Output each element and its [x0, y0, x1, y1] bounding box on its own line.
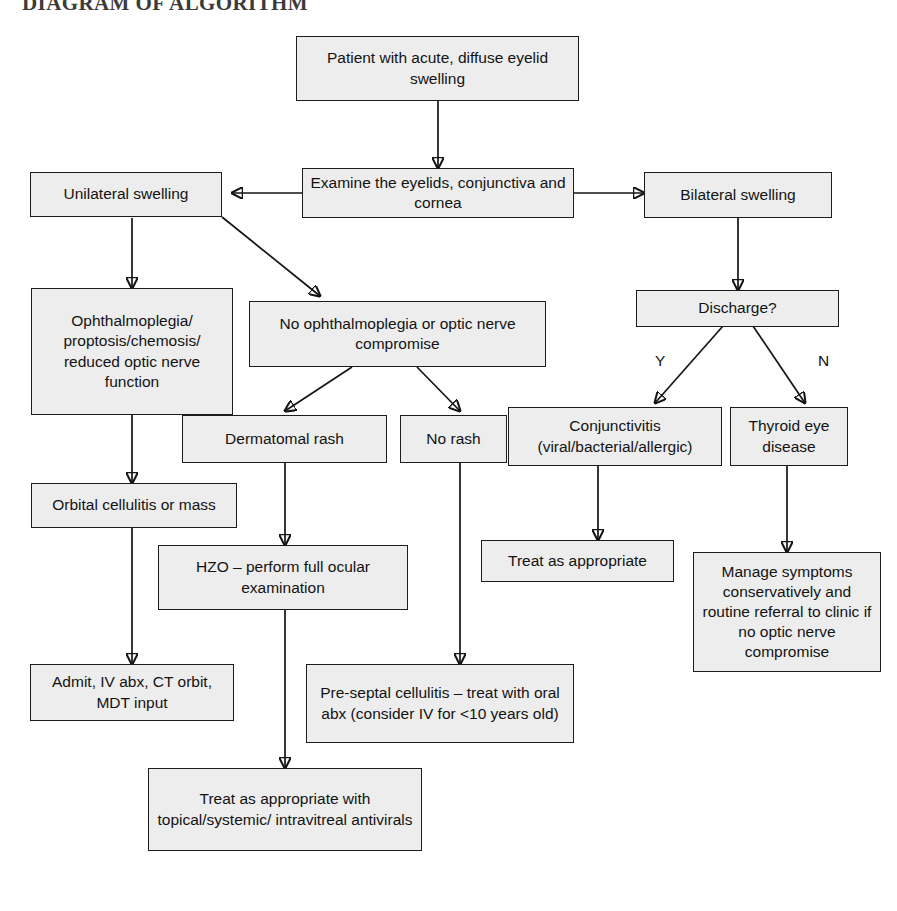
- page-title: DIAGRAM OF ALGORITHM: [22, 0, 308, 16]
- node-unilateral-swelling[interactable]: Unilateral swelling: [30, 172, 222, 217]
- node-no-ophthalmoplegia[interactable]: No ophthalmoplegia or optic nerve compro…: [249, 301, 546, 367]
- node-bilateral-swelling[interactable]: Bilateral swelling: [644, 172, 832, 218]
- node-start[interactable]: Patient with acute, diffuse eyelid swell…: [296, 36, 579, 101]
- node-treat-as-appropriate[interactable]: Treat as appropriate: [481, 540, 674, 582]
- node-hzo[interactable]: HZO – perform full ocular examination: [158, 545, 408, 610]
- node-antivirals[interactable]: Treat as appropriate with topical/system…: [148, 768, 422, 851]
- edge-label-no: N: [818, 353, 829, 369]
- node-dermatomal-rash[interactable]: Dermatomal rash: [182, 415, 387, 463]
- edge-discharge-thyroid: [753, 326, 805, 403]
- node-conjunctivitis[interactable]: Conjunctivitis (viral/bacterial/allergic…: [508, 407, 722, 466]
- flowchart-canvas: DIAGRAM OF ALGORITHM: [0, 0, 897, 911]
- node-manage-symptoms[interactable]: Manage symptoms conservatively and routi…: [693, 552, 881, 672]
- edge-label-yes: Y: [655, 353, 665, 369]
- node-thyroid-eye-disease[interactable]: Thyroid eye disease: [730, 407, 848, 466]
- node-ophthalmoplegia[interactable]: Ophthalmoplegia/ proptosis/chemosis/ red…: [31, 288, 233, 415]
- node-examine[interactable]: Examine the eyelids, conjunctiva and cor…: [302, 168, 574, 218]
- edge-noophthalmo-dermatomal: [285, 367, 352, 411]
- node-orbital-cellulitis[interactable]: Orbital cellulitis or mass: [31, 483, 237, 528]
- edge-unilateral-no-ophthalmoplegia: [222, 217, 320, 296]
- node-discharge[interactable]: Discharge?: [636, 290, 839, 327]
- node-preseptal-cellulitis[interactable]: Pre-septal cellulitis – treat with oral …: [306, 664, 574, 743]
- node-admit[interactable]: Admit, IV abx, CT orbit, MDT input: [30, 664, 234, 721]
- edge-noophthalmo-norash: [417, 367, 460, 411]
- node-no-rash[interactable]: No rash: [400, 415, 507, 463]
